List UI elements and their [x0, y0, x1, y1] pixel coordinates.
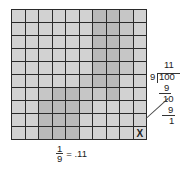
- grid-cell: [26, 36, 39, 48]
- grid-cell: [12, 114, 25, 126]
- grid-cell: [107, 62, 120, 74]
- grid-cell: [53, 23, 66, 35]
- grid-cell: [39, 101, 52, 113]
- grid-cell: [39, 62, 52, 74]
- grid-cell: [12, 127, 25, 139]
- grid-cell: [107, 10, 120, 22]
- grid-cell: [66, 62, 79, 74]
- grid-cell: [26, 101, 39, 113]
- grid-cell: [26, 10, 39, 22]
- grid-cell: [93, 75, 106, 87]
- grid-cell: [93, 23, 106, 35]
- grid-cell: [120, 23, 133, 35]
- grid-cell: [39, 23, 52, 35]
- grid-cell: [39, 36, 52, 48]
- grid-cell: [53, 114, 66, 126]
- grid-cell: [80, 62, 93, 74]
- grid-cell: [12, 36, 25, 48]
- grid-cell: [107, 114, 120, 126]
- grid-cell: [12, 23, 25, 35]
- grid-cell: [80, 10, 93, 22]
- grid-cell: [93, 114, 106, 126]
- grid-cell: [120, 88, 133, 100]
- grid-cell: [53, 127, 66, 139]
- grid-cell: [26, 23, 39, 35]
- grid-cell: [66, 36, 79, 48]
- grid-cell: [120, 36, 133, 48]
- grid-cell: [66, 75, 79, 87]
- grid-cell: [134, 101, 147, 113]
- dividend: 100: [159, 72, 175, 82]
- grid-cell: [26, 127, 39, 139]
- grid-cell: [107, 49, 120, 61]
- grid-cell: [12, 101, 25, 113]
- grid-cell: [12, 75, 25, 87]
- grid-cell: [26, 114, 39, 126]
- grid-cell: [93, 127, 106, 139]
- grid-cell: [12, 49, 25, 61]
- caption: 1 9 = .11: [56, 144, 87, 163]
- grid-cell: [80, 23, 93, 35]
- grid-cell: [120, 114, 133, 126]
- grid-cell: [80, 75, 93, 87]
- grid-cell: [80, 127, 93, 139]
- grid-cell: [93, 49, 106, 61]
- grid-cell: [26, 88, 39, 100]
- grid-cell: [107, 127, 120, 139]
- fraction-denominator: 9: [57, 154, 62, 163]
- grid-cell: [12, 10, 25, 22]
- grid-cell: [80, 88, 93, 100]
- grid-cell: [39, 49, 52, 61]
- grid-cell: [39, 114, 52, 126]
- grid-cell: [107, 88, 120, 100]
- grid-cell: [93, 10, 106, 22]
- decimal-equivalent: = .11: [66, 148, 87, 159]
- grid-cell: [66, 88, 79, 100]
- grid-cell: [12, 62, 25, 74]
- grid-cell: [53, 101, 66, 113]
- grid-cell: [107, 101, 120, 113]
- grid-cell: [53, 49, 66, 61]
- grid-cell: [53, 62, 66, 74]
- hundred-grid: X: [11, 9, 147, 140]
- grid-cell: [26, 62, 39, 74]
- grid-cell: [93, 101, 106, 113]
- grid-cell: [26, 49, 39, 61]
- remainder: 1: [169, 116, 174, 126]
- grid-cell: [107, 75, 120, 87]
- grid-cell: [80, 114, 93, 126]
- grid-cell: [134, 23, 147, 35]
- grid-cell: [53, 88, 66, 100]
- grid-cell: [134, 114, 147, 126]
- grid-cell: [39, 75, 52, 87]
- grid-cell: [39, 10, 52, 22]
- grid-cell: [134, 10, 147, 22]
- grid-cell: [66, 23, 79, 35]
- grid-cell: [120, 127, 133, 139]
- grid-cell: [134, 49, 147, 61]
- grid-cell: [53, 10, 66, 22]
- grid-cell: [107, 36, 120, 48]
- grid-cell: [80, 101, 93, 113]
- grid-cell: [120, 101, 133, 113]
- fraction-one-ninth: 1 9: [56, 144, 63, 163]
- divisor: 9: [150, 72, 155, 82]
- grid-cell: [134, 36, 147, 48]
- grid-cell: [66, 49, 79, 61]
- grid-cell: [66, 114, 79, 126]
- grid-cell: [53, 36, 66, 48]
- grid-cell: [66, 127, 79, 139]
- grid-cell: [134, 88, 147, 100]
- grid-cell: [120, 62, 133, 74]
- grid-cell: [80, 36, 93, 48]
- grid-cell: [39, 127, 52, 139]
- grid-cell: [134, 75, 147, 87]
- grid-cell: [39, 88, 52, 100]
- grid-cell: [107, 23, 120, 35]
- grid-cell: [80, 49, 93, 61]
- grid-cell: [93, 62, 106, 74]
- grid-cell: [93, 88, 106, 100]
- grid-cell: [93, 36, 106, 48]
- grid-cell: [66, 101, 79, 113]
- grid-cell: [120, 49, 133, 61]
